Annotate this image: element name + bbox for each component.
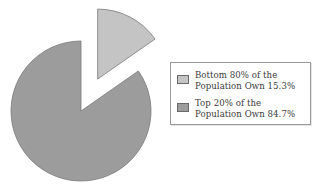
legend-label: Top 20% of the Population Own 84.7%	[195, 98, 295, 119]
chart-legend: Bottom 80% of the Population Own 15.3% T…	[170, 62, 311, 125]
pie-slice-top-20-percent	[11, 41, 151, 181]
legend-label-line1: Bottom 80% of the	[195, 70, 295, 81]
legend-label-line1: Top 20% of the	[195, 98, 295, 109]
legend-label-line2: Population Own 84.7%	[195, 109, 295, 120]
legend-item-top-20: Top 20% of the Population Own 84.7%	[177, 98, 295, 119]
legend-swatch-dark-gray	[177, 103, 189, 112]
pie-slice-bottom-80-percent	[98, 9, 155, 79]
legend-swatch-light-gray	[177, 75, 189, 84]
legend-label: Bottom 80% of the Population Own 15.3%	[195, 70, 295, 91]
legend-label-line2: Population Own 15.3%	[195, 81, 295, 92]
legend-item-bottom-80: Bottom 80% of the Population Own 15.3%	[177, 70, 295, 91]
